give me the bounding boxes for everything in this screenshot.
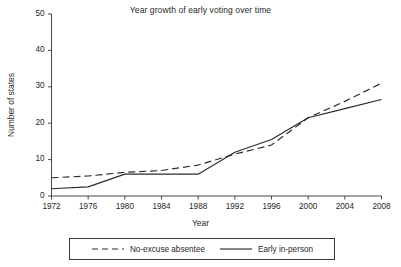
y-tick-label: 40 [0,45,45,54]
x-tick-label: 2004 [325,202,365,211]
dashed-line-icon [91,245,125,253]
chart-legend: No-excuse absenteeEarly in-person [69,238,335,260]
x-tick-label: 1996 [252,202,292,211]
x-axis-label: Year [0,218,401,228]
chart-figure: Year growth of early voting over time Nu… [0,0,401,267]
x-tick-label: 1980 [105,202,145,211]
y-tick-label: 10 [0,154,45,163]
data-series-group [52,83,382,189]
y-tick-label: 50 [0,9,45,18]
legend-label: No-excuse absentee [130,245,205,254]
x-tick-label: 1972 [32,202,72,211]
axes [48,14,382,200]
solid-line-icon [219,245,253,253]
series-line-1 [52,100,382,189]
x-tick-label: 1976 [68,202,108,211]
y-tick-label: 20 [0,118,45,127]
y-tick-label: 0 [0,191,45,200]
x-tick-label: 1992 [215,202,255,211]
y-tick-label: 30 [0,81,45,90]
legend-label: Early in-person [258,245,313,254]
x-tick-label: 1984 [142,202,182,211]
y-axis-ticks [48,14,52,196]
x-tick-label: 2008 [362,202,401,211]
legend-entry[interactable]: No-excuse absentee [91,245,205,254]
x-axis-ticks [52,196,382,200]
x-tick-label: 1988 [178,202,218,211]
legend-entry[interactable]: Early in-person [219,245,313,254]
x-tick-label: 2000 [288,202,328,211]
